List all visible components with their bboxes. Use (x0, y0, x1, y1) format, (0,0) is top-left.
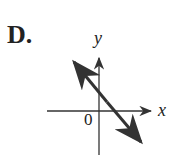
graph-line-lower (107, 102, 141, 142)
graph-line (74, 62, 107, 102)
graph (0, 0, 169, 161)
